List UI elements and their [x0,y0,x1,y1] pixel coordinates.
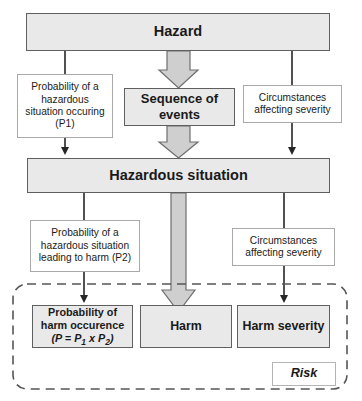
risk-group-label-text: Risk [291,366,318,381]
formula-p: P [55,332,62,344]
node-probability-of-harm-formula: (P = P1 x P2) [51,332,113,344]
note-sev-2-line1: Circumstances [250,235,317,246]
node-sequence-of-events-line2: events [159,107,200,122]
note-p1-line1: Probability of a [31,81,98,92]
formula-times: x [86,332,98,344]
arrowhead-to-hazardous-situation-right [288,147,296,155]
note-p1-line3: situation occuring [25,106,104,117]
node-hazard-label: Hazard [154,23,202,41]
note-p2-line3: leading to harm (P2) [39,252,131,263]
node-probability-of-harm-line1: Probability of [48,306,117,318]
node-sequence-of-events-label: Sequence of events [141,91,218,123]
arrowhead-to-hazardous-situation-left [61,147,69,155]
block-arrow-sequence-to-hazardous-situation [159,126,198,158]
risk-group-label: Risk [272,362,336,386]
node-hazardous-situation[interactable]: Hazardous situation [27,158,330,193]
note-sev-1-line2: affecting severity [254,104,330,115]
note-probability-hazardous-situation-leading-to-harm[interactable]: Probability of a hazardous situation lea… [30,220,140,272]
node-hazardous-situation-label: Hazardous situation [109,167,248,185]
formula-paren-close: ) [110,332,114,344]
node-sequence-of-events[interactable]: Sequence of events [124,88,235,126]
note-p2-text: Probability of a hazardous situation lea… [39,227,131,264]
note-sev-1-text: Circumstances affecting severity [254,92,330,117]
node-harm-severity-label: Harm severity [243,319,325,334]
block-arrow-hazardous-situation-to-harm [162,193,195,312]
note-p1-line2: hazardous [41,94,89,105]
note-p1-text: Probability of a hazardous situation occ… [25,81,104,131]
node-harm-severity[interactable]: Harm severity [237,305,330,348]
note-p1-line4: (P1) [55,118,74,129]
note-circumstances-affecting-severity-top[interactable]: Circumstances affecting severity [243,85,342,123]
block-arrow-hazard-to-sequence [159,51,198,88]
note-p2-line1: Probability of a [51,227,118,238]
node-probability-of-harm-text: Probability of harm occurence (P = P1 x … [41,306,124,348]
note-sev-2-line2: affecting severity [245,247,321,258]
node-probability-of-harm-occurence[interactable]: Probability of harm occurence (P = P1 x … [32,305,133,348]
formula-equals: = [62,332,74,344]
node-probability-of-harm-line2: harm occurence [41,319,124,331]
note-p2-line2: hazardous situation [41,240,129,251]
node-hazard[interactable]: Hazard [26,13,330,51]
note-probability-hazardous-situation-occuring[interactable]: Probability of a hazardous situation occ… [17,74,113,138]
node-harm-label: Harm [170,319,202,334]
note-sev-2-text: Circumstances affecting severity [245,235,321,260]
note-circumstances-affecting-severity-bottom[interactable]: Circumstances affecting severity [232,228,335,266]
arrowhead-to-harm-severity [280,295,288,303]
arrowhead-to-probability-of-harm [80,295,88,303]
node-sequence-of-events-line1: Sequence of [141,91,218,106]
node-harm[interactable]: Harm [140,305,232,348]
note-sev-1-line1: Circumstances [259,92,326,103]
